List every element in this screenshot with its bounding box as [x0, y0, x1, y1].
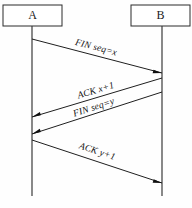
message-arrowhead: [32, 112, 41, 117]
participant-label-b: B: [156, 8, 164, 22]
message-label-ack-y1: ACK y+1: [77, 140, 117, 162]
message-arrowhead: [153, 70, 162, 73]
participant-box-a: A: [3, 5, 62, 26]
diagram-canvas: A B FIN seq=x ACK x+1 FIN seq=y ACK y+1: [0, 0, 192, 208]
message-arrowhead: [32, 129, 41, 134]
message-arrow-line: [32, 92, 162, 134]
message-arrowhead: [153, 179, 162, 183]
participant-label-a: A: [28, 8, 37, 22]
message-label-fin-seq-x: FIN seq=x: [73, 37, 118, 58]
participant-box-b: B: [131, 5, 190, 26]
message-label-fin-seq-y: FIN seq=y: [71, 96, 116, 119]
sequence-diagram: A B FIN seq=x ACK x+1 FIN seq=y ACK y+1: [0, 0, 192, 208]
